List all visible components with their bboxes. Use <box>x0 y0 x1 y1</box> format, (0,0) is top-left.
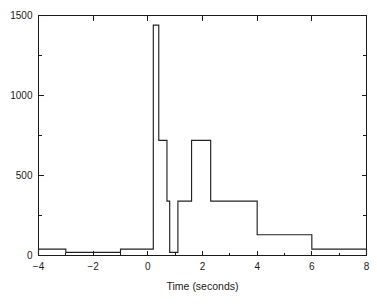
x-tick-label-2: 0 <box>145 261 151 272</box>
x-tick-label-5: 6 <box>309 261 315 272</box>
y-tick-label-0: 0 <box>27 250 33 261</box>
x-tick-label-0: −4 <box>33 261 45 272</box>
data-step-line <box>39 25 367 255</box>
x-axis-title: Time (seconds) <box>167 280 239 292</box>
x-tick-label-6: 8 <box>364 261 370 272</box>
y-tick-label-3: 1500 <box>10 10 33 21</box>
plot-frame <box>39 16 367 256</box>
chart-container: −4−202468050010001500Time (seconds) <box>0 0 377 306</box>
y-tick-label-1: 500 <box>16 170 33 181</box>
x-tick-label-3: 2 <box>200 261 206 272</box>
y-tick-label-2: 1000 <box>10 90 33 101</box>
step-histogram-chart: −4−202468050010001500Time (seconds) <box>0 0 377 306</box>
x-tick-label-4: 4 <box>254 261 260 272</box>
x-tick-label-1: −2 <box>87 261 99 272</box>
